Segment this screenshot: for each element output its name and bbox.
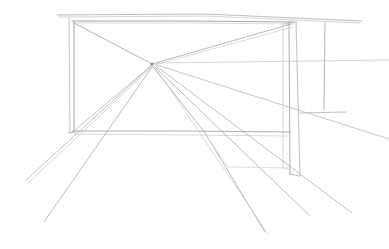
paper-background <box>0 0 389 249</box>
vanishing-point-marker <box>150 62 153 65</box>
sketch-svg <box>0 0 389 249</box>
perspective-sketch-canvas <box>0 0 389 249</box>
